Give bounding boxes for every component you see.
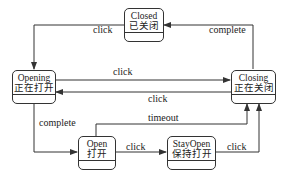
label-opening-to-closing: click: [113, 66, 132, 77]
state-compartment: [79, 160, 115, 169]
state-stayopen: StayOpen 保持打开: [167, 136, 216, 170]
label-open-to-stayopen: click: [126, 141, 145, 152]
state-name-zh: 打开: [87, 149, 107, 159]
state-opening: Opening 正在打开: [12, 70, 56, 104]
state-compartment: [125, 32, 163, 41]
state-compartment: [13, 94, 55, 103]
state-closing: Closing 正在关闭: [231, 70, 276, 104]
state-name-zh: 保持打开: [172, 149, 212, 159]
state-compartment: [232, 94, 275, 103]
state-name: StayOpen: [173, 139, 210, 149]
state-name: Closing: [239, 73, 269, 83]
state-name: Closed: [131, 11, 157, 21]
label-closing-to-opening: click: [148, 93, 167, 104]
state-name: Open: [87, 139, 108, 149]
label-open-to-closing: timeout: [148, 112, 179, 123]
state-open: Open 打开: [78, 136, 116, 170]
label-closed-to-opening: click: [93, 24, 112, 35]
state-closed: Closed 已关闭: [124, 8, 164, 42]
label-opening-to-open: complete: [39, 117, 76, 128]
label-stayopen-to-closing: click: [227, 141, 246, 152]
state-name-zh: 已关闭: [129, 21, 159, 31]
label-closing-to-closed: complete: [209, 24, 246, 35]
state-name-zh: 正在关闭: [234, 83, 274, 93]
state-name-zh: 正在打开: [14, 83, 54, 93]
state-compartment: [168, 160, 215, 169]
state-name: Opening: [18, 73, 51, 83]
